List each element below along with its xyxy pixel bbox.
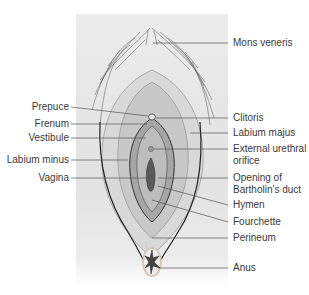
label-prepuce: Prepuce — [32, 101, 69, 113]
label-external-urethral-line1: External urethral — [233, 143, 306, 155]
label-anus: Anus — [233, 262, 256, 274]
label-fourchette: Fourchette — [233, 216, 281, 228]
label-bartholin-line1: Opening of — [233, 172, 301, 184]
label-labium-minus: Labium minus — [7, 154, 69, 166]
label-perineum: Perineum — [233, 232, 276, 244]
label-vestibule: Vestibule — [28, 132, 69, 144]
label-bartholin-line2: Bartholin's duct — [233, 184, 301, 196]
label-vagina: Vagina — [39, 172, 69, 184]
label-frenum: Frenum — [35, 118, 69, 130]
label-hymen: Hymen — [233, 199, 265, 211]
label-external-urethral-line2: orifice — [233, 155, 306, 167]
label-external-urethral-orifice: External urethral orifice — [233, 143, 306, 167]
urethral-orifice-shape — [148, 146, 153, 151]
clitoris-shape — [149, 114, 156, 120]
label-labium-majus: Labium majus — [233, 127, 295, 139]
label-clitoris: Clitoris — [233, 112, 264, 124]
label-opening-bartholins-duct: Opening of Bartholin's duct — [233, 172, 301, 196]
label-mons-veneris: Mons veneris — [233, 37, 292, 49]
